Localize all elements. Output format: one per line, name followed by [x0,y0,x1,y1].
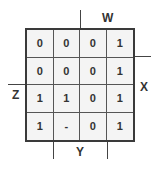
kmap-cell: 0 [54,30,81,58]
kmap-cell: 1 [107,58,134,86]
w-bracket-line [80,10,81,28]
x-label: X [140,80,148,94]
kmap-cell: 0 [54,58,81,86]
karnaugh-map-grid: 0 0 0 1 0 0 0 1 1 1 0 1 1 - 0 1 [25,28,135,142]
kmap-cell: 1 [107,30,134,58]
kmap-cell: 0 [80,113,107,141]
kmap-cell: 0 [80,85,107,113]
kmap-cell: 1 [27,85,54,113]
y-bracket-line-left [53,142,54,159]
kmap-cell: - [54,113,81,141]
x-bracket-line [135,56,151,57]
y-bracket-line-right [107,142,108,159]
kmap-cell: 1 [107,113,134,141]
kmap-cell: 1 [107,85,134,113]
kmap-cell: 0 [80,58,107,86]
kmap-cell: 0 [27,30,54,58]
kmap-cell: 0 [80,30,107,58]
kmap-cell: 0 [27,58,54,86]
kmap-cell: 1 [27,113,54,141]
y-label: Y [76,145,84,159]
kmap-cell: 1 [54,85,81,113]
z-label: Z [12,88,19,102]
z-bracket-line [8,84,25,85]
w-label: W [102,11,113,25]
